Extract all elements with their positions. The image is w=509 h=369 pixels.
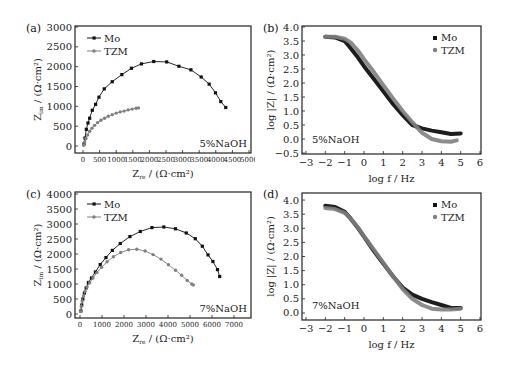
data-marker-circle xyxy=(185,279,188,282)
legend: MoTZM xyxy=(433,199,465,223)
x-axis-label: log f / Hz xyxy=(368,339,414,350)
data-marker-circle xyxy=(95,271,98,274)
x-tick-label: 4000 xyxy=(159,321,177,329)
y-tick-label: 3.0 xyxy=(283,223,299,234)
x-tick-label: 2 xyxy=(399,157,405,168)
y-tick-label: 1.0 xyxy=(283,279,299,290)
series-line xyxy=(81,227,220,311)
x-tick-label: 0 xyxy=(81,156,85,164)
data-marker-square xyxy=(206,253,209,256)
x-tick-label: 1 xyxy=(380,157,386,168)
y-tick-label: 4.0 xyxy=(283,195,299,206)
annotation-concentration: 7%NaOH xyxy=(200,303,248,314)
legend-tzm-marker xyxy=(92,49,95,52)
y-tick-label: 2500 xyxy=(47,234,72,245)
legend-mo-marker xyxy=(93,36,96,39)
y-tick-label: 2.0 xyxy=(283,251,299,262)
data-marker-circle xyxy=(82,144,85,147)
data-marker-square xyxy=(214,91,217,94)
panel-label: (d) xyxy=(263,188,279,201)
bode-chart-5pct: −3−2−10123456−0.50.00.51.01.52.02.53.03.… xyxy=(255,0,509,185)
data-marker-circle xyxy=(96,121,99,124)
annotation-concentration: 5%NaOH xyxy=(200,138,248,149)
x-axis-label: Zre / (Ω·cm²) xyxy=(132,333,194,345)
data-marker-square xyxy=(120,73,123,76)
data-marker-circle xyxy=(91,276,94,279)
series-line xyxy=(84,62,226,145)
data-marker-circle xyxy=(111,113,114,116)
data-marker-square xyxy=(111,80,114,83)
y-tick-label: 500 xyxy=(53,294,72,305)
legend-mo-label: Mo xyxy=(104,33,120,44)
data-marker-circle xyxy=(127,248,130,251)
x-axis-label: Zre / (Ω·cm²) xyxy=(132,168,194,180)
panel-label: (a) xyxy=(26,22,41,35)
x-tick-label: 3500 xyxy=(190,156,208,164)
x-tick-label: 1500 xyxy=(124,156,142,164)
plot-frame xyxy=(75,192,251,318)
data-marker-circle xyxy=(119,251,122,254)
y-tick-label: 1000 xyxy=(47,279,72,290)
y-tick-label: 4.0 xyxy=(283,22,299,33)
nyquist-chart-7pct: 0100020003000400050006000700005001000150… xyxy=(0,180,255,369)
x-tick-label: 5 xyxy=(457,157,463,168)
data-marker-square xyxy=(119,242,122,245)
data-marker-square xyxy=(111,249,114,252)
x-tick-label: 7000 xyxy=(225,321,243,329)
y-tick-label: 0.5 xyxy=(283,120,299,131)
x-tick-label: 3000 xyxy=(137,321,155,329)
data-marker-circle xyxy=(99,119,102,122)
data-marker-square xyxy=(85,128,88,131)
series-line xyxy=(325,208,460,310)
data-marker-square xyxy=(152,60,155,63)
x-tick-label: 4500 xyxy=(223,156,241,164)
x-tick-label: 0 xyxy=(361,157,367,168)
data-marker-circle xyxy=(84,137,87,140)
data-marker-square xyxy=(139,230,142,233)
data-marker-square xyxy=(150,226,153,229)
x-tick-label: 5 xyxy=(457,323,463,334)
data-marker-circle xyxy=(83,290,86,293)
data-marker-square xyxy=(88,117,91,120)
data-marker-circle xyxy=(118,110,121,113)
series-tzm xyxy=(325,37,457,142)
y-tick-label: 3000 xyxy=(47,22,72,33)
x-tick-label: 1 xyxy=(380,323,386,334)
data-marker-square xyxy=(104,256,107,259)
series-line xyxy=(325,37,457,142)
data-marker-square xyxy=(189,68,192,71)
data-marker-circle xyxy=(80,305,83,308)
data-marker-circle xyxy=(192,283,195,286)
y-axis-label: log |Z| / (Ω·cm²) xyxy=(265,50,277,131)
panel-d: (d) −3−2−101234560.00.51.01.52.02.53.03.… xyxy=(255,180,509,369)
x-tick-label: −3 xyxy=(299,157,314,168)
legend-mo-marker xyxy=(433,203,437,207)
legend: MoTZM xyxy=(87,33,128,57)
x-tick-label: 4 xyxy=(438,157,444,168)
x-tick-label: 4000 xyxy=(207,156,225,164)
data-marker-circle xyxy=(82,294,85,297)
y-tick-label: 3500 xyxy=(47,204,72,215)
x-tick-label: −2 xyxy=(318,157,333,168)
legend-tzm-label: TZM xyxy=(441,45,465,56)
y-tick-label: 0.0 xyxy=(283,307,299,318)
data-marker-square xyxy=(174,227,177,230)
data-marker-circle xyxy=(81,299,84,302)
data-marker-circle xyxy=(143,249,146,252)
data-marker-square xyxy=(216,268,219,271)
data-marker-square xyxy=(194,237,197,240)
y-tick-label: 3.5 xyxy=(283,209,299,220)
panel-a: (a) 050010001500200025003000350040004500… xyxy=(0,0,255,185)
y-tick-label: 2.5 xyxy=(283,64,299,75)
y-tick-label: 1.0 xyxy=(283,106,299,117)
y-tick-label: 1500 xyxy=(47,264,72,275)
data-marker-square xyxy=(185,231,188,234)
x-tick-label: 3 xyxy=(419,157,425,168)
data-marker-square xyxy=(162,225,165,228)
data-marker-square xyxy=(224,106,227,109)
data-marker-circle xyxy=(105,260,108,263)
x-tick-label: 3 xyxy=(419,323,425,334)
data-marker-circle xyxy=(93,124,96,127)
data-marker-square xyxy=(208,83,211,86)
legend-mo-marker xyxy=(433,36,437,40)
